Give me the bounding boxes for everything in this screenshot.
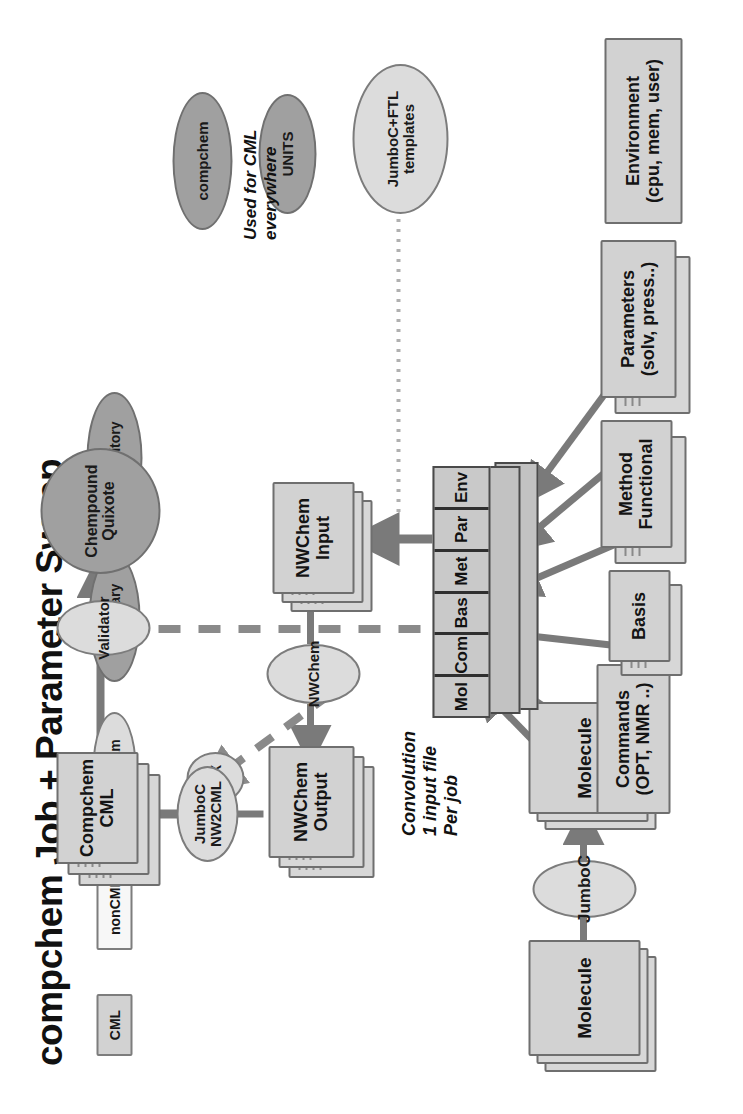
environment-label: Environment (cpu, mem, user) [623, 59, 663, 203]
segbar-cell-label: Env [451, 472, 471, 503]
method-label: Method Functional [616, 439, 656, 530]
method-box: Method Functional [600, 420, 672, 548]
compchem-cml-label: Compchem CML [77, 759, 117, 857]
compchem-cml-stack: Compchem CML [56, 752, 138, 864]
molecule-cml-label: Molecule [574, 717, 595, 798]
diagram-frame: compchem Job + Parameter Sweep CML nonCM… [0, 0, 743, 1114]
legend-cml-label: CML [106, 1010, 122, 1040]
basis-box: Basis [608, 570, 670, 662]
segbar-cell-com: Com [434, 632, 488, 674]
note-convolution: Convolution 1 input file Per job [398, 731, 462, 836]
jumboc-ftl-templates-oval: JumboC+FTL templates [352, 64, 448, 214]
segbar-cell-label: Bas [451, 597, 471, 628]
nwchem-output-box: NWChem Output [268, 746, 354, 858]
compchem-dictionary-label: compchem [194, 119, 210, 202]
legend-noncml-label: nonCML [106, 879, 122, 935]
compchem-dictionary-oval: compchem [172, 92, 232, 230]
segbar-cell-label: Mol [451, 682, 471, 711]
nwchem-input-stack: NWChem Input [272, 482, 354, 594]
molecule-input-box: Molecule [528, 940, 640, 1056]
nwchem-input-label: NWChem Input [293, 498, 333, 578]
validator-oval: Validator [56, 600, 150, 656]
nwchem-output-label: NWChem Output [291, 762, 331, 842]
diagram-canvas: compchem Job + Parameter Sweep CML nonCM… [0, 0, 743, 1114]
segbar-cell-par: Par [434, 507, 488, 549]
segbar-cell-label: Par [451, 516, 471, 543]
job-segment-bar: MolComBasMetParEnv [432, 466, 490, 718]
segbar-cell-bas: Bas [434, 591, 488, 633]
jumboc-nw2cml-oval: JumboC NW2CML [176, 766, 238, 862]
commands-box: Commands (OPT, NMR ..) [596, 664, 670, 814]
jumboc-nw2cml-label: JumboC NW2CML [191, 779, 223, 849]
units-dictionary-label: UNITS [279, 130, 295, 179]
parameters-label: Parameters (solv, press..) [618, 262, 658, 377]
legend-cml: CML [96, 994, 132, 1056]
segbar-cell-mol: Mol [434, 674, 488, 716]
parameters-box: Parameters (solv, press..) [600, 240, 676, 398]
jumboc-ftl-templates-label: JumboC+FTL templates [384, 89, 416, 189]
validator-label: Validator [95, 594, 111, 661]
commands-label: Commands (OPT, NMR ..) [613, 683, 653, 796]
nwchem-output-stack: NWChem Output [268, 746, 354, 858]
method-stack: Method Functional [600, 420, 672, 548]
jumboc-label: JumboC [575, 853, 593, 925]
segbar-cell-label: Met [451, 556, 471, 585]
segbar-cell-label: Com [451, 636, 471, 674]
environment-box: Environment (cpu, mem, user) [604, 38, 682, 224]
segbar-cell-env: Env [434, 468, 488, 507]
molecule-input-stack: Molecule [528, 940, 640, 1056]
basis-stack: Basis [608, 570, 670, 662]
parameters-stack: Parameters (solv, press..) [600, 240, 676, 398]
molecule-input-label: Molecule [574, 957, 595, 1038]
nwchem-program-oval: NWChem [266, 644, 360, 704]
nwchem-input-box: NWChem Input [272, 482, 354, 594]
compchem-cml-box: Compchem CML [56, 752, 138, 864]
jumboc-oval: JumboC [532, 860, 636, 918]
basis-label: Basis [629, 592, 649, 640]
chempound-quixote-oval: Chempound Quixote [40, 448, 160, 574]
nwchem-program-label: NWChem [305, 639, 321, 710]
note-used-for-cml: Used for CML everywhere [240, 130, 280, 241]
segbar-cell-met: Met [434, 549, 488, 591]
chempound-quixote-label: Chempound Quixote [83, 462, 117, 559]
